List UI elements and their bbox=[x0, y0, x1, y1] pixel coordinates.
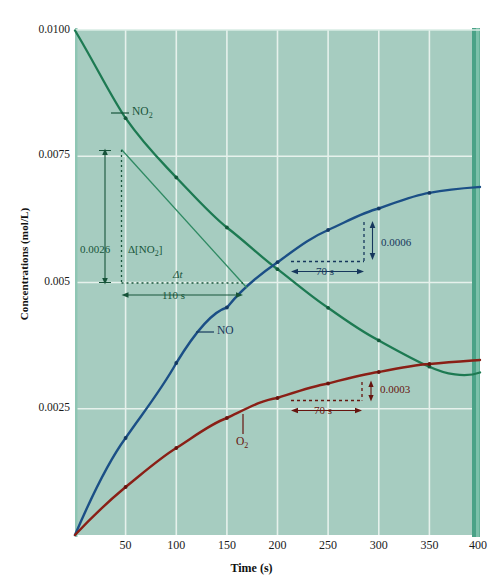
delta-no2-symbol-text: Δ[NO bbox=[128, 243, 155, 255]
no-run-value-label: 70 s bbox=[313, 265, 337, 277]
no-rise-value-label: 0.0006 bbox=[381, 236, 411, 248]
series-label-no: NO bbox=[217, 324, 234, 336]
delta-no2-symbol-label: Δ[NO2] bbox=[128, 243, 162, 258]
o2-run-value-label: 70 s bbox=[311, 404, 335, 416]
plot-left-border bbox=[75, 28, 78, 537]
series-label-o2: O2 bbox=[236, 435, 248, 450]
kinetics-concentration-chart: 0.0100 0.0075 0.005 0.0025 50 100 150 20… bbox=[0, 0, 503, 586]
y-tick-label: 0.0025 bbox=[10, 401, 70, 413]
delta-t-value-label: 110 s bbox=[159, 289, 188, 301]
chart-canvas bbox=[0, 0, 503, 586]
series-label-no2-text: NO bbox=[132, 105, 149, 117]
o2-rise-value-label: 0.0003 bbox=[380, 383, 410, 395]
series-label-no2-sub: 2 bbox=[149, 111, 153, 120]
y-tick-label: 0.0100 bbox=[10, 23, 70, 35]
series-label-no2: NO2 bbox=[132, 105, 153, 120]
x-axis-title: Time (s) bbox=[0, 561, 503, 576]
y-axis-title: Concentrations (mol/L) bbox=[18, 154, 30, 374]
delta-no2-value-label: 0.0026 bbox=[80, 243, 110, 255]
delta-t-symbol-label: Δt bbox=[173, 268, 183, 280]
plot-right-highlight bbox=[476, 28, 480, 537]
series-label-no-text: NO bbox=[217, 324, 234, 336]
delta-no2-symbol-end: ] bbox=[159, 243, 163, 255]
x-tick-label: 400 bbox=[448, 538, 503, 553]
series-label-o2-sub: 2 bbox=[244, 441, 248, 450]
